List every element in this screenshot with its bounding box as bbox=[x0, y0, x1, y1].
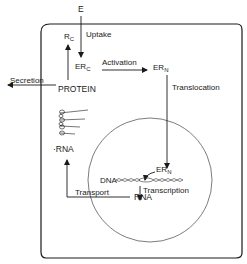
cell-membrane bbox=[41, 24, 242, 258]
node-ern: ERN bbox=[153, 63, 168, 75]
edge-label-uptake: Uptake bbox=[86, 30, 111, 39]
edge-label-translocation: Translocation bbox=[172, 83, 220, 92]
node-rc: RC bbox=[64, 32, 74, 44]
node-protein: PROTEIN bbox=[58, 85, 96, 94]
ern-binding-arrow bbox=[145, 172, 155, 180]
edge-label-activation: Activation bbox=[102, 58, 137, 67]
node-erc: ERC bbox=[75, 62, 90, 74]
edge-label-transport: Transport bbox=[75, 188, 109, 197]
node-rna-nucleus: RNA bbox=[134, 193, 152, 202]
diagram-canvas bbox=[0, 0, 247, 264]
polysome-icon bbox=[59, 110, 88, 135]
node-dna: DNA bbox=[100, 176, 117, 185]
node-e: E bbox=[78, 5, 84, 14]
dna-helix-icon bbox=[116, 178, 183, 182]
node-ern-nuclear: ERN bbox=[156, 165, 171, 177]
edge-label-secretion: Secretion bbox=[10, 76, 44, 85]
node-rna-cytoplasm: ·RNA bbox=[53, 145, 74, 154]
